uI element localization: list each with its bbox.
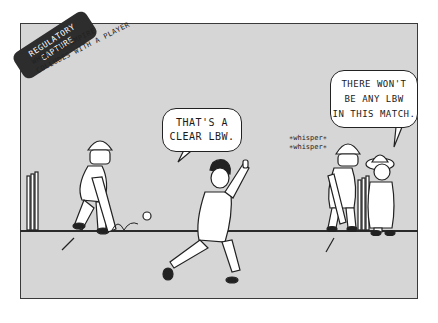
right-wicket-stumps-icon [358,176,369,230]
bowler-speech-line-1: THAT'S A [163,116,241,130]
umpire-speech-line-2: BE ANY LBW [331,92,417,107]
bowler-speech-line-2: CLEAR LBW. [163,130,241,144]
umpire-speech-bubble: THERE WON'T BE ANY LBW IN THIS MATCH. [330,70,418,128]
whisper-text: ∗whisper∗ ∗whisper∗ [289,134,327,152]
umpire-speech-line-1: THERE WON'T [331,77,417,92]
whisper-line-2: ∗whisper∗ [289,143,327,152]
left-wicket-stumps-icon [27,172,38,230]
umpire-figure [366,155,395,236]
bowler-speech-bubble: THAT'S A CLEAR LBW. [162,108,242,152]
umpire-speech-line-3: IN THIS MATCH. [331,107,417,122]
whisper-line-1: ∗whisper∗ [289,134,327,143]
cricket-ball-icon [143,212,151,220]
batsman-figure [62,141,116,250]
bowler-figure [163,160,249,283]
colluding-batsman-figure [326,144,360,252]
